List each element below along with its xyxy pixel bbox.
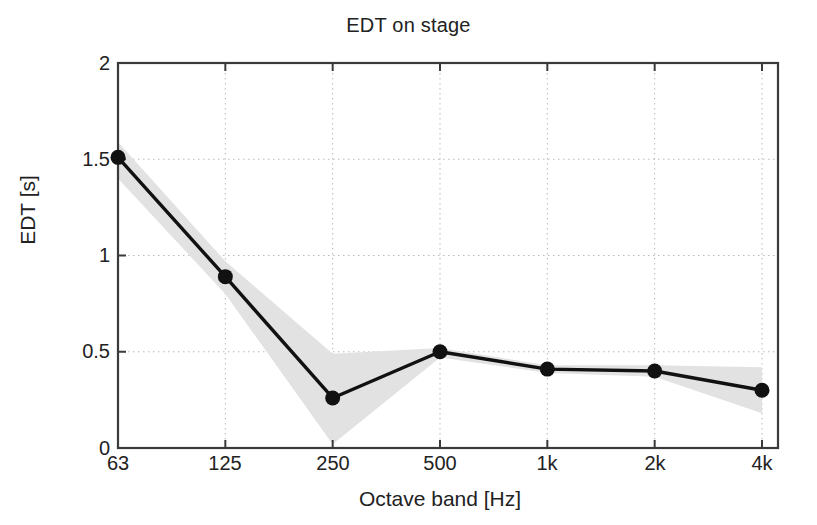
data-point-125 — [218, 269, 233, 284]
data-point-1k — [540, 362, 555, 377]
data-point-2k — [647, 364, 662, 379]
plot-canvas — [0, 0, 817, 525]
data-point-500 — [433, 344, 448, 359]
data-point-63 — [111, 150, 126, 165]
data-point-250 — [325, 390, 340, 405]
chart-figure: EDT on stage EDT [s] 0 0.5 1 1.5 2 63 12… — [0, 0, 817, 525]
data-point-4k — [755, 383, 770, 398]
